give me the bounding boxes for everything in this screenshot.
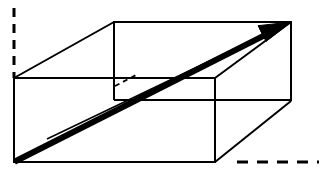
hidden-back-left-depth-edge — [115, 74, 138, 86]
top-left-depth-edge — [14, 22, 114, 78]
bottom-right-depth-edge — [215, 101, 291, 162]
prism-diagram-svg — [0, 0, 324, 170]
space-diagonal-arrow-shaft — [14, 31, 273, 162]
figure-root — [0, 0, 324, 170]
